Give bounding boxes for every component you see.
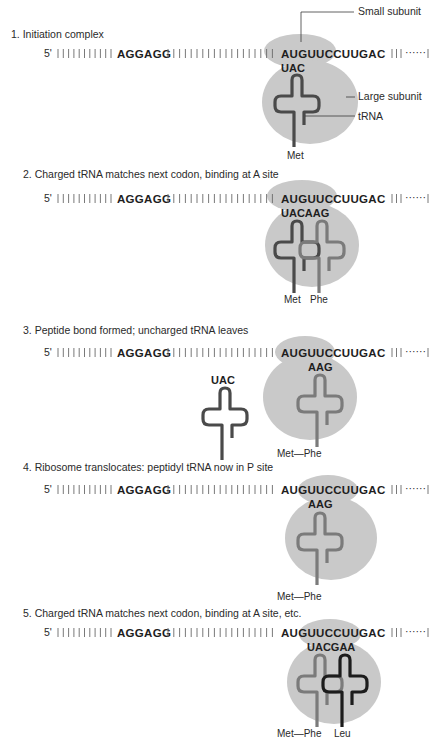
five-prime-label: 5' [44, 346, 52, 358]
mrna-ticks [168, 485, 272, 494]
step-2-title: 2. Charged tRNA matches next codon, bind… [23, 168, 279, 180]
anticodon: UACGAA [307, 641, 355, 653]
mrna-ticks [58, 628, 111, 637]
anticodon: UAC [281, 62, 305, 74]
mrna-ticks: ······ [392, 345, 428, 357]
shine-dalgarno-sequence: AGGAGG [117, 48, 171, 60]
svg-text:······: ······ [405, 191, 426, 203]
coding-sequence: AUGUUCCUUGAC [281, 48, 386, 60]
anticodon: AAG [308, 361, 332, 373]
step-5: 5. Charged tRNA matches next codon, bind… [23, 607, 428, 739]
mrna-ticks [168, 348, 272, 357]
shine-dalgarno-sequence: AGGAGG [117, 193, 171, 205]
amino-acid-label-met: Met [284, 294, 301, 305]
coding-sequence: AUGUUCCUUGAC [281, 484, 386, 496]
released-anticodon: UAC [211, 374, 235, 386]
mrna-strand: 5' AGGAGG AUGUUCCUUGAC ······ [44, 191, 428, 205]
step-1-title: 1. Initiation complex [11, 28, 105, 40]
step-4: 4. Ribosome translocates: peptidyl tRNA … [23, 461, 428, 602]
mrna-ticks: ······ [392, 482, 428, 494]
mrna-ticks [58, 348, 111, 357]
mrna-strand: 5' AGGAGG AUGUUCCUUGAC ······ [44, 46, 428, 60]
svg-text:······: ······ [405, 46, 426, 58]
mrna-ticks [58, 485, 111, 494]
step-5-title: 5. Charged tRNA matches next codon, bind… [23, 607, 301, 619]
mrna-ticks [168, 194, 272, 203]
five-prime-label: 5' [44, 483, 52, 495]
shine-dalgarno-sequence: AGGAGG [117, 484, 171, 496]
coding-sequence: AUGUUCCUUGAC [281, 627, 386, 639]
coding-sequence: AUGUUCCUUGAC [281, 193, 386, 205]
mrna-ticks [58, 194, 111, 203]
five-prime-label: 5' [44, 626, 52, 638]
mrna-ticks [168, 628, 272, 637]
amino-acid-label-phe: Phe [310, 294, 328, 305]
mrna-ticks: ······ [392, 191, 428, 203]
step-2: 2. Charged tRNA matches next codon, bind… [23, 168, 428, 305]
anticodon: UACAAG [281, 207, 329, 219]
mrna-ticks [58, 49, 111, 58]
five-prime-label: 5' [44, 192, 52, 204]
amino-acid-label: Met—Phe [277, 448, 322, 459]
shine-dalgarno-sequence: AGGAGG [117, 347, 171, 359]
mrna-strand: 5' AGGAGG AUGUUCCUUGAC ······ [44, 345, 428, 359]
svg-text:······: ······ [405, 625, 426, 637]
trna-label: tRNA [358, 110, 383, 122]
step-3: 3. Peptide bond formed; uncharged tRNA l… [23, 324, 428, 460]
amino-acid-label: Met [287, 150, 304, 161]
amino-acid-label-leu: Leu [334, 728, 351, 739]
mrna-ticks: ······ [392, 46, 428, 58]
mrna-strand: 5' AGGAGG AUGUUCCUUGAC ······ [44, 482, 428, 496]
mrna-ticks: ······ [392, 625, 428, 637]
small-subunit-label: Small subunit [358, 5, 421, 17]
svg-text:······: ······ [405, 482, 426, 494]
mrna-strand: 5' AGGAGG AUGUUCCUUGAC ······ [44, 625, 428, 639]
svg-text:······: ······ [405, 345, 426, 357]
translation-diagram: 1. Initiation complex 5' AGGAGG AUGUUCCU… [0, 0, 445, 740]
mrna-ticks [168, 49, 272, 58]
five-prime-label: 5' [44, 47, 52, 59]
step-3-title: 3. Peptide bond formed; uncharged tRNA l… [23, 324, 248, 336]
step-4-title: 4. Ribosome translocates: peptidyl tRNA … [23, 461, 273, 473]
large-subunit-label: Large subunit [358, 90, 422, 102]
step-1: 1. Initiation complex 5' AGGAGG AUGUUCCU… [11, 5, 428, 161]
released-trna [203, 388, 247, 460]
coding-sequence: AUGUUCCUUGAC [281, 347, 386, 359]
anticodon: AAG [308, 498, 332, 510]
shine-dalgarno-sequence: AGGAGG [117, 627, 171, 639]
amino-acid-label-peptide: Met—Phe [277, 728, 322, 739]
amino-acid-label: Met—Phe [277, 591, 322, 602]
